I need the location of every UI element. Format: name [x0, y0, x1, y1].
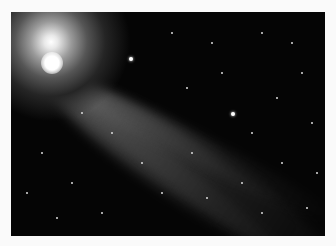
star [41, 152, 43, 154]
star [171, 32, 173, 34]
comet-nucleus [41, 52, 63, 74]
star [261, 32, 263, 34]
star [111, 132, 113, 134]
star [129, 57, 133, 61]
star [101, 212, 103, 214]
star [186, 87, 188, 89]
star [251, 132, 253, 134]
star [306, 207, 308, 209]
star [191, 152, 193, 154]
star [241, 182, 243, 184]
star [276, 97, 278, 99]
star [311, 122, 313, 124]
star [231, 112, 235, 116]
star [71, 182, 73, 184]
comet-photo [11, 12, 325, 236]
star [206, 197, 208, 199]
star [56, 217, 58, 219]
star [221, 72, 223, 74]
star [211, 42, 213, 44]
star [26, 192, 28, 194]
star [316, 172, 318, 174]
star [301, 72, 303, 74]
star [141, 162, 143, 164]
star [81, 112, 83, 114]
star [161, 192, 163, 194]
star [291, 42, 293, 44]
star [281, 162, 283, 164]
star [261, 212, 263, 214]
